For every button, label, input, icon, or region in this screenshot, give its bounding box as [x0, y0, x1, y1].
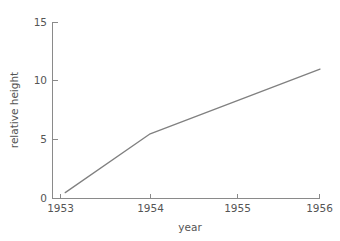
- x-tick-label-1954: 1954: [137, 202, 164, 214]
- x-tick-label-1956: 1956: [306, 202, 333, 214]
- y-axis-title: relative height: [8, 72, 20, 148]
- y-tick-label-15: 15: [34, 16, 47, 28]
- x-tick-label-1955: 1955: [224, 202, 251, 214]
- y-tick-label-5: 5: [40, 133, 47, 145]
- x-tick-label-1953: 1953: [47, 202, 74, 214]
- y-tick-label-10: 10: [34, 74, 47, 86]
- x-axis-title: year: [178, 221, 202, 233]
- y-tick-label-0: 0: [40, 192, 47, 204]
- line-chart: 0 5 10 15 1953 1954 1955 1956 year relat…: [0, 0, 340, 241]
- chart-figure: 0 5 10 15 1953 1954 1955 1956 year relat…: [0, 0, 340, 241]
